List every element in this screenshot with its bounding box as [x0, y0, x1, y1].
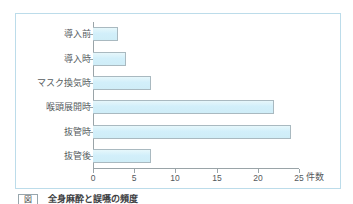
bar-chart: 導入前導入時マスク換気時喉頭展開時抜管時抜管後 0510152025 件数 — [0, 0, 353, 204]
category-label: 抜管時 — [0, 127, 91, 137]
x-axis-tick-label: 10 — [170, 174, 179, 183]
category-label: 抜管後 — [0, 151, 91, 161]
y-axis-line — [93, 22, 94, 169]
bar — [93, 27, 118, 41]
figure-caption: 図 全身麻酔と誤嚥の頻度 — [15, 194, 341, 204]
x-axis-tick-label: 0 — [91, 174, 96, 183]
figure-caption-text: 全身麻酔と誤嚥の頻度 — [48, 194, 138, 204]
x-axis-tick-label: 15 — [212, 174, 221, 183]
x-axis-tick-label: 25 — [294, 174, 303, 183]
bar — [93, 125, 291, 139]
x-axis-line — [93, 168, 299, 169]
category-label: 導入前 — [0, 29, 91, 39]
x-axis-unit-label: 件数 — [306, 172, 324, 182]
bar — [93, 149, 151, 163]
category-label: 喉頭展開時 — [0, 102, 91, 112]
category-label: マスク換気時 — [0, 78, 91, 88]
x-axis-tick-label: 5 — [132, 174, 137, 183]
bar — [93, 76, 151, 90]
x-axis-tick-label: 20 — [253, 174, 262, 183]
bar — [93, 52, 126, 66]
category-label: 導入時 — [0, 54, 91, 64]
bar — [93, 100, 274, 114]
figure-number-tag: 図 — [18, 194, 38, 204]
